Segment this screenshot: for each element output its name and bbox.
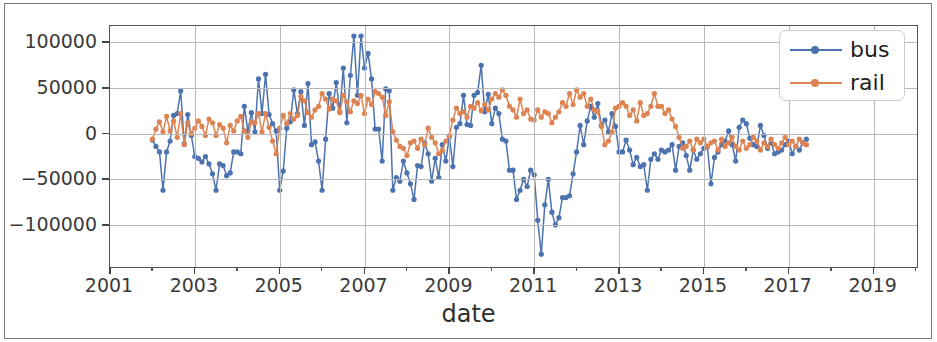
x-tick-minor	[491, 267, 492, 271]
x-tick-mark	[788, 267, 790, 274]
x-tick-label: 2015	[679, 274, 727, 296]
x-tick-minor	[660, 267, 661, 271]
x-tick-minor	[236, 267, 237, 271]
x-tick-minor	[151, 267, 152, 271]
y-tick-mark	[102, 133, 109, 135]
x-tick-minor	[321, 267, 322, 271]
x-tick-label: 2003	[170, 274, 218, 296]
y-tick-mark	[102, 178, 109, 180]
x-tick-label: 2009	[424, 274, 472, 296]
y-tick-mark	[102, 224, 109, 226]
x-tick-label: 2005	[254, 274, 302, 296]
x-axis-label: date	[0, 300, 937, 328]
x-tick-minor	[576, 267, 577, 271]
y-tick-label: 100000	[24, 30, 97, 52]
chart-legend: bus rail	[779, 30, 905, 101]
x-tick-minor	[406, 267, 407, 271]
legend-marker-rail	[811, 79, 819, 87]
y-tick-label: −50000	[21, 167, 97, 189]
x-tick-label: 2007	[339, 274, 387, 296]
y-tick-mark	[102, 87, 109, 89]
legend-marker-bus	[811, 46, 819, 54]
y-tick-label: 0	[85, 122, 97, 144]
chart-figure: 100000500000−50000−100000 20012003200520…	[0, 0, 937, 342]
legend-label-rail: rail	[850, 69, 885, 97]
x-tick-label: 2013	[594, 274, 642, 296]
x-tick-label: 2001	[85, 274, 133, 296]
x-tick-mark	[618, 267, 620, 274]
x-tick-mark	[703, 267, 705, 274]
x-tick-mark	[279, 267, 281, 274]
x-tick-mark	[448, 267, 450, 274]
x-tick-mark	[533, 267, 535, 274]
x-tick-minor	[830, 267, 831, 271]
x-tick-mark	[109, 267, 111, 274]
legend-item-rail: rail	[780, 68, 904, 98]
y-tick-label: −100000	[9, 213, 97, 235]
x-tick-minor	[915, 267, 916, 271]
y-tick-mark	[102, 41, 109, 43]
x-tick-label: 2017	[764, 274, 812, 296]
y-tick-label: 50000	[37, 76, 97, 98]
x-tick-minor	[745, 267, 746, 271]
x-tick-mark	[873, 267, 875, 274]
x-tick-label: 2019	[848, 274, 896, 296]
x-tick-label: 2011	[509, 274, 557, 296]
x-tick-mark	[194, 267, 196, 274]
x-tick-mark	[364, 267, 366, 274]
legend-label-bus: bus	[850, 36, 889, 64]
legend-item-bus: bus	[780, 35, 904, 65]
